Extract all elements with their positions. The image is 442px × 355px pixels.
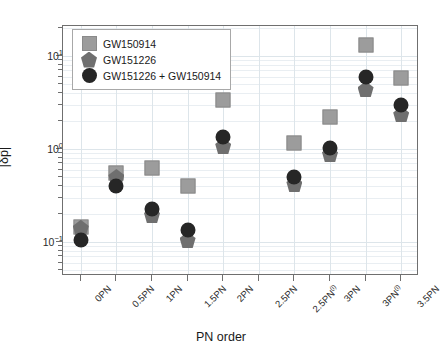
- x-tick-mark: [365, 275, 366, 281]
- x-tick-label: 1PN: [163, 283, 184, 304]
- data-point-circle: [358, 70, 373, 85]
- data-point-square: [216, 92, 231, 107]
- x-tick-label: 3PN(l): [379, 283, 405, 309]
- x-tick-label: 0PN: [92, 283, 113, 304]
- legend-marker-circle-icon: [80, 68, 98, 83]
- x-tick-label: 2PN: [235, 283, 256, 304]
- legend-marker-pentagon-icon: [80, 52, 98, 68]
- data-point-circle: [394, 97, 409, 112]
- x-tick-label: 2.5PN(l): [310, 283, 341, 314]
- legend-label: GW151226: [103, 54, 156, 66]
- data-point-circle: [180, 222, 195, 237]
- gridline-vertical: [401, 26, 402, 274]
- y-tick-label: 10−1: [43, 234, 63, 248]
- y-axis-label: |δp̂|: [0, 147, 11, 167]
- data-point-square: [145, 160, 160, 175]
- data-point-square: [394, 71, 409, 86]
- data-point-square: [358, 38, 373, 53]
- data-point-circle: [216, 129, 231, 144]
- gridline-vertical: [366, 26, 367, 274]
- legend: GW150914GW151226GW151226 + GW150914: [72, 29, 231, 90]
- x-tick-mark: [151, 275, 152, 281]
- legend-item: GW151226: [80, 52, 221, 67]
- y-tick-label: 100: [47, 141, 63, 155]
- gridline-vertical: [259, 26, 260, 274]
- x-tick-mark: [115, 275, 116, 281]
- x-tick-mark: [329, 275, 330, 281]
- data-point-circle: [73, 233, 88, 248]
- x-tick-mark: [400, 275, 401, 281]
- legend-label: GW150914: [103, 38, 156, 50]
- data-point-circle: [287, 169, 302, 184]
- x-tick-mark: [222, 275, 223, 281]
- figure: |δp̂| 10110010−1 0PN0.5PN1PN1.5PN2PN2.5P…: [0, 0, 442, 355]
- legend-item: GW150914: [80, 36, 221, 51]
- legend-item: GW151226 + GW150914: [80, 68, 221, 83]
- x-tick-label: 2.5PN: [273, 283, 299, 309]
- legend-label: GW151226 + GW150914: [103, 70, 221, 82]
- x-tick-mark: [258, 275, 259, 281]
- data-point-square: [323, 110, 338, 125]
- data-point-circle: [145, 202, 160, 217]
- data-point-circle: [109, 179, 124, 194]
- x-tick-label: 1.5PN: [201, 283, 227, 309]
- x-axis-label: PN order: [0, 330, 442, 344]
- legend-marker-square-icon: [80, 36, 98, 51]
- data-point-square: [287, 136, 302, 151]
- x-tick-label: 3.5PN: [415, 283, 441, 309]
- x-tick-mark: [80, 275, 81, 281]
- x-tick-label: 0.5PN: [130, 283, 156, 309]
- x-tick-mark: [293, 275, 294, 281]
- data-point-circle: [323, 141, 338, 156]
- x-tick-label: 3PN: [341, 283, 362, 304]
- data-point-square: [180, 179, 195, 194]
- x-tick-mark: [187, 275, 188, 281]
- y-tick-label: 101: [47, 48, 63, 62]
